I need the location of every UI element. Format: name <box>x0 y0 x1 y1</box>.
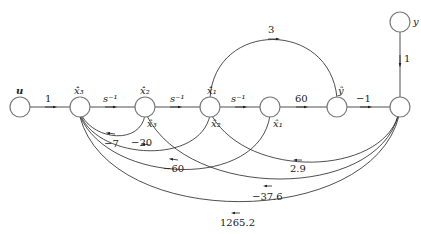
node-y <box>390 12 410 32</box>
gain-right-x2dot: −37.6 <box>252 191 283 202</box>
label-x3dot: x̂̇₃ <box>74 85 84 96</box>
gain-right-x1dot: 2.9 <box>290 163 306 174</box>
label-x2: x̂₂ <box>211 118 221 129</box>
gain-right-x3dot: 1265.2 <box>220 217 255 228</box>
edge-fb-minus7 <box>82 115 145 136</box>
edge-x1dot-yhat <box>210 40 337 99</box>
gain-yhat-right: −1 <box>356 93 371 104</box>
gain-u-x3dot: 1 <box>45 93 51 104</box>
label-x2dot: x̂̇₂ <box>140 85 150 96</box>
signal-flow-graph: u x̂̇₃ x̂̇₂ x̂₃ x̂̇₁ x̂₂ x̂₁ ŷ y 1 s⁻¹ s… <box>0 0 421 234</box>
edge-right-x1dot <box>212 116 398 162</box>
node-x3dot <box>70 97 90 117</box>
label-yhat: ŷ <box>337 85 344 96</box>
label-x1: x̂₁ <box>273 118 283 129</box>
node-x1dot-x2 <box>200 97 220 117</box>
gain-fb-minus20: −20 <box>131 137 152 148</box>
gain-y-right: 1 <box>404 53 410 64</box>
node-right <box>390 97 410 117</box>
label-y: y <box>412 16 419 27</box>
gain-integrator-1: s⁻¹ <box>103 93 117 104</box>
node-yhat <box>327 97 347 117</box>
label-x1dot: x̂̇₁ <box>207 85 217 96</box>
gain-integrator-2: s⁻¹ <box>170 93 184 104</box>
node-u <box>10 97 30 117</box>
gain-fb-minus7: −7 <box>104 138 119 149</box>
node-x2dot-x3 <box>135 97 155 117</box>
gain-fb-minus60: −60 <box>163 163 184 174</box>
label-u: u <box>16 85 23 96</box>
gain-integrator-3: s⁻¹ <box>231 93 245 104</box>
gain-x1dot-yhat: 3 <box>268 24 274 35</box>
node-x1 <box>260 97 280 117</box>
gain-x1-yhat: 60 <box>295 93 308 104</box>
label-x3: x̂₃ <box>147 118 157 129</box>
